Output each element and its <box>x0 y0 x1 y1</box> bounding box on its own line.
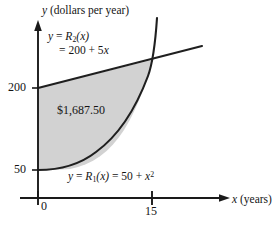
r1-argument: (x) <box>96 170 109 182</box>
x-axis-variable: x <box>232 193 237 205</box>
curve-label-lower: y = R1(x) = 50 + x2 <box>68 170 154 184</box>
r2-argument: (x) <box>76 30 89 42</box>
curve-label-upper: y = R2(x) = 200 + 5x <box>48 30 109 56</box>
r1-equals: = <box>76 170 83 182</box>
r1-rhs-equals: = <box>112 170 119 182</box>
x-axis-arrowhead <box>219 194 230 202</box>
x-axis-units: (years) <box>240 193 272 205</box>
r2-rhs-expression: 200 + 5 <box>68 44 103 56</box>
r2-lhs-variable: y <box>48 30 53 42</box>
x-tick-label-15: 15 <box>145 205 157 218</box>
r1-rhs-exponent: 2 <box>150 170 154 179</box>
y-axis-units: (dollars per year) <box>50 4 129 16</box>
r2-rhs-equals: = <box>59 44 66 56</box>
area-value-annotation: $1,687.50 <box>57 104 105 117</box>
y-axis-arrowhead <box>34 20 42 31</box>
x-axis-label: x (years) <box>232 193 272 205</box>
x-tick-label-0: 0 <box>41 200 47 213</box>
y-axis-variable: y <box>42 4 47 16</box>
y-axis-label: y (dollars per year) <box>42 4 129 16</box>
r1-lhs-variable: y <box>68 170 73 182</box>
r2-rhs-variable: x <box>104 44 109 56</box>
r2-equals: = <box>56 30 63 42</box>
y-tick-label-50: 50 <box>14 163 26 176</box>
r1-rhs-expression: 50 + <box>121 170 142 182</box>
y-tick-label-200: 200 <box>8 81 26 94</box>
